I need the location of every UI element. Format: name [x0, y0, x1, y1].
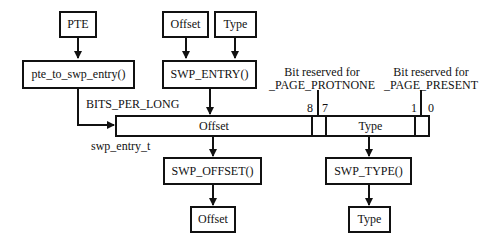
offset-output-label: Offset [198, 212, 228, 227]
type-field-label: Type [359, 119, 383, 134]
present-bit-field [416, 117, 428, 135]
present-annotation: Bit reserved for _PAGE_PRESENT [375, 66, 487, 92]
pte-label: PTE [67, 17, 88, 32]
pte-to-swp-entry-box: pte_to_swp_entry() [22, 60, 135, 89]
offset-input-box: Offset [162, 11, 209, 38]
swp-offset-label: SWP_OFFSET() [171, 164, 253, 179]
type-input-label: Type [224, 17, 248, 32]
offset-input-label: Offset [171, 17, 201, 32]
swp-entry-label: SWP_ENTRY() [171, 67, 249, 82]
swp-entry-box: SWP_ENTRY() [162, 60, 257, 89]
offset-field-label: Offset [199, 119, 229, 134]
swp-type-box: SWP_TYPE() [325, 157, 412, 185]
offset-output-box: Offset [190, 206, 236, 233]
protnone-annotation: Bit reserved for _PAGE_PROTNONE [262, 66, 382, 92]
swp-entry-t-bar: Offset Type [115, 115, 430, 137]
swp-entry-t-label: swp_entry_t [91, 140, 150, 153]
bit-8-label: 8 [307, 102, 313, 115]
type-field: Type [327, 117, 416, 135]
offset-field: Offset [117, 117, 313, 135]
bit-0-label: 0 [428, 102, 434, 115]
type-output-box: Type [348, 206, 391, 233]
pte-to-swp-entry-label: pte_to_swp_entry() [32, 67, 126, 82]
protnone-annotation-line2: _PAGE_PROTNONE [262, 79, 382, 92]
protnone-bit-field [313, 117, 327, 135]
type-output-label: Type [358, 212, 382, 227]
swp-type-label: SWP_TYPE() [334, 164, 403, 179]
present-annotation-line2: _PAGE_PRESENT [375, 79, 487, 92]
bits-per-long-label: BITS_PER_LONG [86, 98, 179, 111]
pte-box: PTE [59, 11, 97, 38]
swp-offset-box: SWP_OFFSET() [163, 157, 262, 185]
bit-1-label: 1 [411, 102, 417, 115]
type-input-box: Type [214, 11, 257, 38]
bit-7-label: 7 [322, 102, 328, 115]
